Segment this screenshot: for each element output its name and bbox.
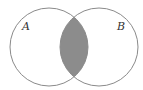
set-a-label: A <box>21 20 30 33</box>
venn-diagram: A B <box>0 0 143 90</box>
set-b-label: B <box>116 20 125 33</box>
